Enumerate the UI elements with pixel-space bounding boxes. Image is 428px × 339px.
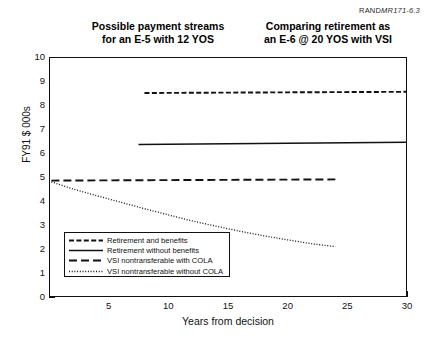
chart-legend: Retirement and benefitsRetirement withou… — [64, 232, 230, 277]
y-tick-label: 6 — [25, 147, 45, 158]
title-line: for an E-5 with 12 YOS — [78, 33, 238, 46]
figure-id: RANDMR171-6.3 — [359, 6, 420, 15]
chart-title-left: Possible payment streamsfor an E-5 with … — [78, 20, 238, 45]
x-tick-label: 20 — [276, 300, 300, 311]
y-tick-label: 2 — [25, 243, 45, 254]
series-line — [139, 142, 408, 144]
series-line — [144, 92, 407, 93]
title-line: Comparing retirement as — [244, 20, 412, 33]
x-axis-label: Years from decision — [49, 315, 407, 327]
y-tick-label: 4 — [25, 195, 45, 206]
legend-swatch-icon — [69, 256, 103, 265]
series-line — [51, 179, 335, 180]
y-tick-label: 5 — [25, 171, 45, 182]
x-tick-label: 25 — [335, 300, 359, 311]
x-tick-label: 15 — [216, 300, 240, 311]
legend-item: Retirement and benefits — [69, 236, 225, 246]
y-tick-label: 0 — [25, 291, 45, 302]
legend-label: VSI nontransferable without COLA — [107, 267, 223, 276]
chart-title-right: Comparing retirement asan E-6 @ 20 YOS w… — [244, 20, 412, 45]
legend-swatch-icon — [69, 267, 103, 276]
figure-id-prefix: RAND — [359, 6, 381, 15]
legend-label: VSI nontransferable with COLA — [107, 256, 213, 265]
legend-label: Retirement without benefits — [107, 246, 199, 255]
y-tick-mark — [49, 297, 55, 298]
title-line: Possible payment streams — [78, 20, 238, 33]
figure-id-suffix: MR171-6.3 — [381, 6, 420, 15]
legend-swatch-icon — [69, 236, 103, 245]
title-line: an E-6 @ 20 YOS with VSI — [244, 33, 412, 46]
y-tick-label: 10 — [25, 51, 45, 62]
legend-item: VSI nontransferable with COLA — [69, 256, 225, 266]
x-tick-label: 30 — [395, 300, 419, 311]
y-tick-label: 3 — [25, 219, 45, 230]
x-tick-mark — [407, 291, 408, 297]
x-tick-label: 10 — [156, 300, 180, 311]
y-tick-label: 7 — [25, 123, 45, 134]
y-tick-label: 9 — [25, 75, 45, 86]
legend-item: Retirement without benefits — [69, 246, 225, 256]
y-tick-label: 8 — [25, 99, 45, 110]
legend-item: VSI nontransferable without COLA — [69, 266, 225, 276]
legend-label: Retirement and benefits — [107, 236, 188, 245]
legend-swatch-icon — [69, 246, 103, 255]
y-tick-label: 1 — [25, 267, 45, 278]
x-tick-label: 5 — [97, 300, 121, 311]
